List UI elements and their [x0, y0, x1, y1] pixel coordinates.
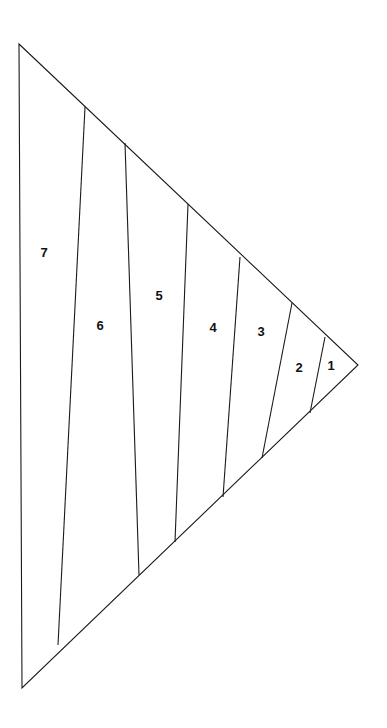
region-label-1: 1	[327, 359, 334, 372]
region-label-5: 5	[155, 289, 162, 302]
region-label-6: 6	[96, 319, 103, 332]
region-label-4: 4	[209, 321, 216, 334]
region-label-2: 2	[295, 361, 302, 374]
region-label-3: 3	[257, 325, 264, 338]
region-label-7: 7	[40, 246, 47, 259]
figure-canvas: 7654321	[0, 0, 387, 728]
region-fill-group	[19, 44, 358, 688]
